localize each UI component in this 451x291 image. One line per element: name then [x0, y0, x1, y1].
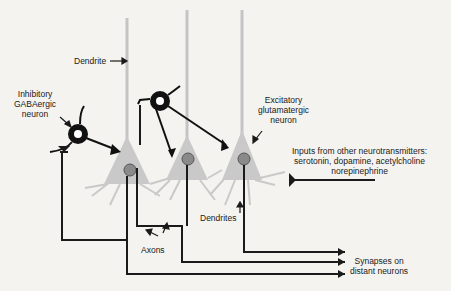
pyramidal-neuron-2 — [155, 135, 222, 200]
dendrite-label: Dendrite — [74, 56, 106, 66]
dendrites-label: Dendrites — [200, 213, 236, 223]
synapses-label: Synapses on distant neurons — [350, 256, 408, 276]
pointer-arrows — [60, 58, 262, 236]
inhibitory-neuron-label: Inhibitory GABAergic neuron — [14, 89, 56, 119]
axons-label: Axons — [141, 245, 165, 255]
axon-wiring — [60, 105, 375, 274]
inputs-label: Inputs from other neurotransmitters: ser… — [292, 146, 427, 176]
excitatory-neuron-label: Excitatory glutamatergic neuron — [258, 95, 309, 125]
apical-dendrites — [127, 10, 242, 140]
